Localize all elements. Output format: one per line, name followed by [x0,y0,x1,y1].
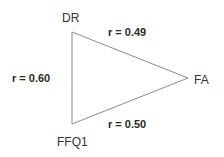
node-label-fa: FA [194,74,209,86]
edge-dr-fa [72,32,188,78]
node-label-dr: DR [62,12,79,24]
edge-label-ffq1-fa: r = 0.50 [108,119,146,130]
node-label-ffq1: FFQ1 [57,136,88,148]
correlation-triangle-diagram: DR FA FFQ1 r = 0.49 r = 0.60 r = 0.50 [0,0,224,157]
edge-label-dr-fa: r = 0.49 [108,27,146,38]
edge-label-dr-ffq1: r = 0.60 [12,73,50,84]
